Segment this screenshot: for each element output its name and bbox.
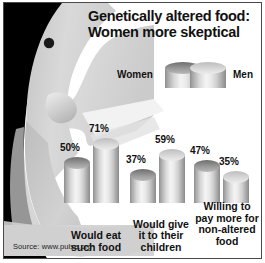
category-label-line: children xyxy=(130,242,192,254)
bar-group: 37%59%Would giveit to theirchildren xyxy=(130,3,192,259)
value-label-women-3: 47% xyxy=(190,145,210,156)
value-label-women-1: 50% xyxy=(60,142,80,153)
bar-group: 47%35%Willing topay more fornon-alteredf… xyxy=(194,3,260,259)
bar-men-3 xyxy=(223,171,249,203)
value-label-men-2: 59% xyxy=(155,134,175,145)
bar-top-ellipse xyxy=(93,138,119,150)
category-label-line: non-altered xyxy=(194,224,260,236)
bar-body xyxy=(93,144,119,203)
infographic-chart: Genetically altered food: Women more ske… xyxy=(0,0,265,263)
category-label-line: Would eat xyxy=(64,230,128,242)
source-note: Source: www.pulse.org xyxy=(13,242,92,251)
bar-body xyxy=(64,163,90,203)
bar-men-2 xyxy=(159,149,185,203)
plot-area: 50%71%Would eatsuch food37%59%Would give… xyxy=(4,3,262,259)
category-label-line: it to their xyxy=(130,230,192,242)
category-label-3: Willing topay more fornon-alteredfood xyxy=(194,201,260,247)
value-label-men-1: 71% xyxy=(89,123,109,134)
bar-top-ellipse xyxy=(159,149,185,161)
value-label-women-2: 37% xyxy=(126,154,146,165)
category-label-2: Would giveit to theirchildren xyxy=(130,219,192,254)
bar-top-ellipse xyxy=(64,157,90,169)
bar-women-2 xyxy=(130,169,156,203)
bar-body xyxy=(159,155,185,203)
bar-top-ellipse xyxy=(194,160,220,172)
bar-top-ellipse xyxy=(223,171,249,183)
bar-men-1 xyxy=(93,138,119,203)
bar-group: 50%71%Would eatsuch food xyxy=(64,3,128,259)
value-label-men-3: 35% xyxy=(219,156,239,167)
category-label-line: Willing to xyxy=(194,201,260,213)
bar-women-3 xyxy=(194,160,220,203)
category-label-line: food xyxy=(194,236,260,248)
bar-women-1 xyxy=(64,157,90,203)
chart-frame: Genetically altered food: Women more ske… xyxy=(3,2,262,259)
bar-top-ellipse xyxy=(130,169,156,181)
